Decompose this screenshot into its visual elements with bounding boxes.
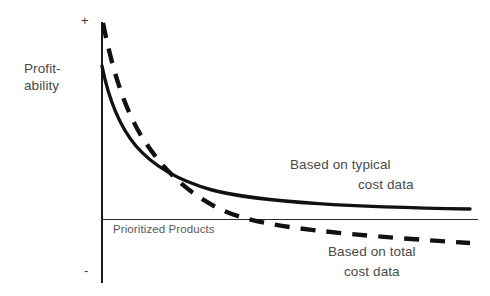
series-typical-cost-label: Based on typical cost data — [290, 155, 414, 195]
series-typical-cost-curve — [102, 66, 470, 209]
chart-canvas — [0, 0, 490, 296]
series-total-cost-label: Based on total cost data — [328, 242, 416, 282]
x-axis-caption: Prioritized Products — [113, 222, 215, 237]
y-axis-negative-marker: - — [84, 263, 88, 278]
y-axis-title: Profit- ability — [24, 60, 61, 94]
profitability-chart: + - Profit- ability Prioritized Products… — [0, 0, 490, 296]
series-total-cost-label-line1: Based on total — [328, 244, 416, 259]
y-axis-positive-marker: + — [81, 13, 89, 28]
series-total-cost-curve — [103, 23, 470, 243]
series-typical-cost-label-line1: Based on typical — [290, 157, 391, 172]
y-axis-title-line1: Profit- — [24, 60, 61, 77]
series-typical-cost-label-line2: cost data — [290, 175, 414, 195]
y-axis-title-line2: ability — [24, 77, 61, 94]
series-total-cost-label-line2: cost data — [328, 262, 416, 282]
